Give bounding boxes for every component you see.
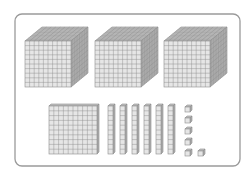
- unit-cube: [185, 149, 192, 156]
- hundred-flats-group: [49, 104, 99, 154]
- unit-cube: [185, 127, 192, 134]
- unit-cube: [198, 149, 205, 156]
- unit-cubes-group: [185, 105, 205, 156]
- base-ten-blocks-diagram: Base-ten blocks: [0, 0, 251, 194]
- hundred-flat: [49, 104, 99, 154]
- ten-rod: [168, 104, 175, 154]
- thousand-cube: [95, 27, 158, 87]
- ten-rod: [156, 104, 163, 154]
- unit-cube: [185, 105, 192, 112]
- thousand-cube: [25, 27, 88, 87]
- diagram-canvas: [0, 0, 251, 194]
- ten-rod: [108, 104, 115, 154]
- ten-rods-group: [108, 104, 175, 154]
- ten-rod: [120, 104, 127, 154]
- ten-rod: [132, 104, 139, 154]
- thousand-cube: [164, 27, 227, 87]
- ten-rod: [144, 104, 151, 154]
- unit-cube: [185, 116, 192, 123]
- thousand-cubes-group: [25, 27, 227, 87]
- unit-cube: [185, 138, 192, 145]
